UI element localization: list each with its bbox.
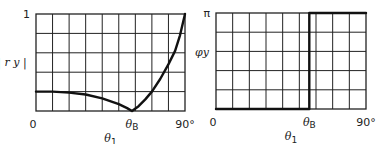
series-line	[36, 14, 185, 111]
panel-magnitude: 0θB90°1θ1| r y |	[0, 8, 195, 144]
figure: 0θB90°1θ1| r y | 0θB90°πθ1φy	[0, 0, 382, 144]
y-tick-label: 1	[23, 8, 30, 21]
x-tick-label: 90°	[356, 116, 376, 129]
y-axis-label: φy	[195, 46, 210, 59]
plot-frame	[216, 13, 366, 109]
x-tick-label: θB	[126, 118, 139, 132]
grid	[216, 13, 366, 109]
x-tick-label: 0	[210, 116, 217, 129]
x-axis-label: θ1	[104, 132, 116, 144]
grid	[36, 14, 185, 111]
y-axis-label: | r y |	[0, 56, 27, 70]
x-tick-label: 0	[30, 118, 37, 131]
y-tick-label: π	[203, 7, 210, 20]
panel-phase: 0θB90°πθ1φy	[195, 7, 376, 144]
x-axis-label: θ1	[285, 130, 297, 144]
x-tick-label: θB	[303, 116, 316, 130]
x-tick-label: 90°	[175, 118, 195, 131]
series-line	[216, 13, 366, 109]
plot-frame	[36, 14, 185, 111]
